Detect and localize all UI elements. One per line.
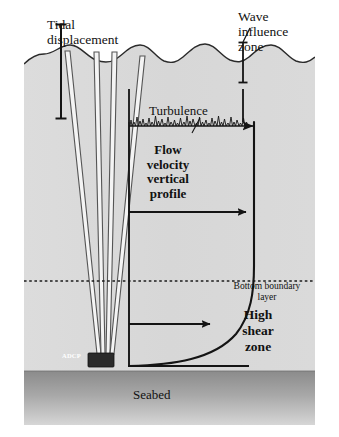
water-body — [24, 44, 315, 371]
figure-root: Tidal displacement Wave influence zone T… — [0, 0, 339, 437]
diagram-artwork — [24, 14, 315, 425]
diagram-frame — [24, 14, 315, 425]
adcp-instrument — [88, 353, 114, 367]
seabed-layer — [24, 371, 315, 425]
wave-influence-leader — [243, 28, 250, 42]
